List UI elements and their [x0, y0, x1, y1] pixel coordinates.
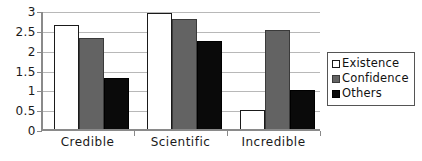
black-square-swatch: [332, 90, 340, 98]
y-axis-tick-label: 2: [28, 46, 36, 58]
gray-square-swatch: [332, 75, 340, 83]
legend-item-confidence[interactable]: Confidence: [332, 71, 409, 86]
y-axis-tick-label: 1: [28, 85, 36, 97]
legend-item-label: Existence: [342, 58, 399, 70]
y-axis-tick-label: 0.5: [15, 105, 36, 117]
x-axis-label-group: CredibleScientificIncredible: [41, 136, 320, 156]
y-axis-tick-label: 1.5: [15, 66, 36, 78]
legend-item-label: Confidence: [342, 73, 409, 85]
legend-item-label: Others: [342, 88, 382, 100]
y-axis-label-group: 00.511.522.53: [0, 12, 36, 131]
x-axis-tick-label: Scientific: [134, 136, 227, 148]
legend-item-others[interactable]: Others: [332, 86, 409, 101]
y-axis-tick: [37, 131, 42, 132]
white-square-swatch: [332, 60, 340, 68]
y-axis-tick-label: 0: [28, 125, 36, 137]
y-axis-tick-label: 3: [28, 6, 36, 18]
y-axis-tick-label: 2.5: [15, 26, 36, 38]
legend-item-existence[interactable]: Existence: [332, 56, 409, 71]
bar-chart: 00.511.522.53 CredibleScientificIncredib…: [0, 0, 422, 161]
plot-area: [41, 12, 320, 131]
x-axis-tick: [320, 131, 321, 136]
x-axis-tick-label: Credible: [41, 136, 134, 148]
x-axis-tick-label: Incredible: [227, 136, 320, 148]
chart-legend: ExistenceConfidenceOthers: [327, 52, 415, 106]
plot-frame: [41, 12, 320, 131]
